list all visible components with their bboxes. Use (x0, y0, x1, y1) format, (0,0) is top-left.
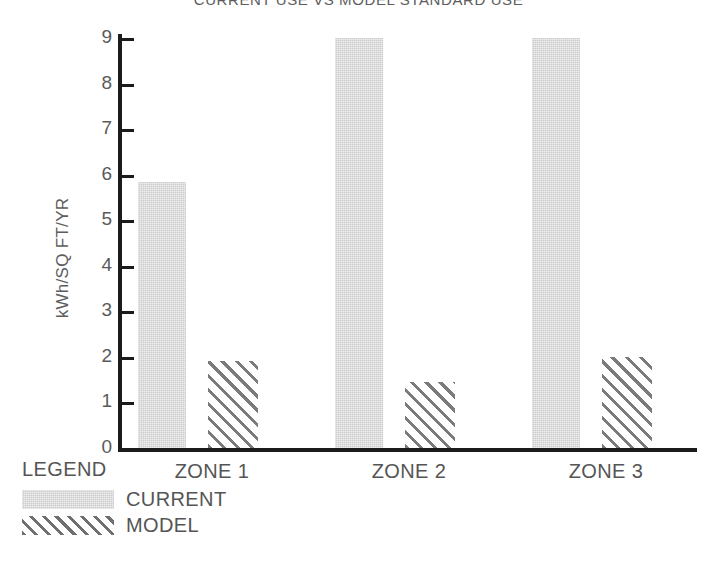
y-tick-label-9: 9 (78, 27, 112, 46)
chart-legend: LEGEND CURRENT MODEL (22, 458, 312, 537)
y-tick-0 (122, 448, 134, 451)
bar-current-zone-2 (335, 38, 383, 448)
bar-model-zone-2 (405, 382, 455, 448)
bar-current-zone-3 (532, 38, 580, 448)
y-tick-label-1: 1 (78, 391, 112, 410)
x-axis-line (118, 448, 697, 452)
y-tick-label-0: 0 (78, 437, 112, 456)
scan-artifact (0, 544, 717, 566)
y-tick-label-2: 2 (78, 346, 112, 365)
x-axis-label-zone-3: ZONE 3 (506, 460, 706, 483)
legend-swatch-model-icon (22, 516, 114, 535)
x-axis-label-zone-2: ZONE 2 (309, 460, 509, 483)
plot-area (122, 38, 697, 448)
legend-swatch-current-icon (22, 490, 114, 509)
y-tick-label-6: 6 (78, 164, 112, 183)
bar-chart-figure: CURRENT USE VS MODEL STANDARD USE 9 8 7 … (0, 0, 717, 566)
y-axis-title: kWh/SQ FT/YR (53, 158, 73, 358)
bar-model-zone-1 (208, 361, 258, 448)
y-tick-label-3: 3 (78, 300, 112, 319)
y-tick-label-5: 5 (78, 209, 112, 228)
y-tick-label-7: 7 (78, 118, 112, 137)
y-tick-label-4: 4 (78, 255, 112, 274)
bar-current-zone-1 (138, 182, 186, 448)
legend-title: LEGEND (22, 458, 312, 481)
legend-label-current: CURRENT (126, 488, 227, 511)
page-title: CURRENT USE VS MODEL STANDARD USE (0, 0, 717, 8)
legend-item-current: CURRENT (22, 487, 312, 511)
y-tick-label-8: 8 (78, 73, 112, 92)
bar-model-zone-3 (602, 357, 652, 448)
legend-label-model: MODEL (126, 514, 199, 537)
legend-item-model: MODEL (22, 513, 312, 537)
